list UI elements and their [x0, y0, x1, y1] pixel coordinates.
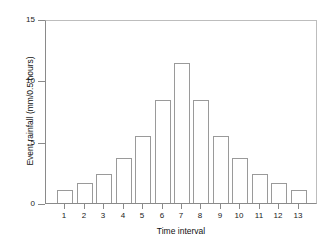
x-axis-tick-label: 12	[267, 211, 289, 220]
y-axis-tick	[38, 204, 45, 205]
x-axis-tick	[278, 204, 279, 209]
x-axis-title: Time interval	[45, 226, 317, 236]
bar	[57, 190, 73, 203]
y-axis-title: Event rainfall (mm/0.5 hours)	[25, 16, 35, 206]
x-axis-tick	[64, 204, 65, 209]
x-axis-tick	[259, 204, 260, 209]
x-axis-tick	[103, 204, 104, 209]
x-axis-tick	[298, 204, 299, 209]
plot-area	[45, 20, 317, 204]
bar	[135, 136, 151, 203]
bar	[271, 183, 287, 203]
x-axis-tick	[181, 204, 182, 209]
bar	[77, 183, 93, 203]
x-axis-tick	[239, 204, 240, 209]
x-axis-tick-label: 8	[189, 211, 211, 220]
x-axis-tick	[142, 204, 143, 209]
x-axis-tick-label: 13	[287, 211, 309, 220]
y-axis-tick	[38, 20, 45, 21]
x-axis-tick-label: 3	[92, 211, 114, 220]
x-axis-tick-label: 5	[131, 211, 153, 220]
bar	[174, 63, 190, 203]
bar	[252, 174, 268, 203]
x-axis-tick	[84, 204, 85, 209]
bar	[213, 136, 229, 203]
x-axis-tick-label: 1	[53, 211, 75, 220]
x-axis-tick	[200, 204, 201, 209]
x-axis-tick-label: 10	[228, 211, 250, 220]
y-axis-tick	[38, 81, 45, 82]
bar-series	[46, 21, 316, 203]
bar	[96, 174, 112, 203]
bar	[291, 190, 307, 203]
bar	[232, 158, 248, 203]
y-axis-tick	[38, 143, 45, 144]
x-axis-tick	[123, 204, 124, 209]
chart-figure: 051015 12345678910111213 Time interval E…	[0, 0, 335, 251]
bar	[116, 158, 132, 203]
x-axis-tick	[162, 204, 163, 209]
x-axis-tick	[220, 204, 221, 209]
bar	[155, 100, 171, 203]
bar	[193, 100, 209, 203]
